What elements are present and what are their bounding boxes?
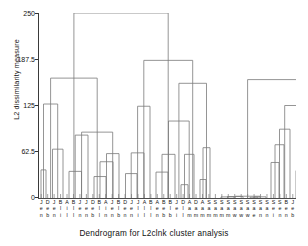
y-tick-label-62-5: 62.5	[2, 148, 35, 155]
leaf-label-group: JenDebJenBliAilBllJenJenDebBllAinJenBlbD…	[38, 199, 296, 225]
y-tick-label-0: 0	[2, 194, 35, 201]
leaf-label: Jeb	[288, 199, 297, 218]
dendrogram-plot-area	[38, 13, 296, 198]
y-axis-title: L2 dissimilarity measure	[12, 20, 21, 140]
dendrogram-figure: 250 187.5 125 62.5 0 L2 dissimilarity me…	[0, 0, 308, 246]
dendrogram-tree	[38, 13, 296, 198]
figure-caption: Dendrogram for L2clnk cluster analysis	[0, 229, 308, 238]
y-tick-label-250: 250	[2, 10, 35, 17]
